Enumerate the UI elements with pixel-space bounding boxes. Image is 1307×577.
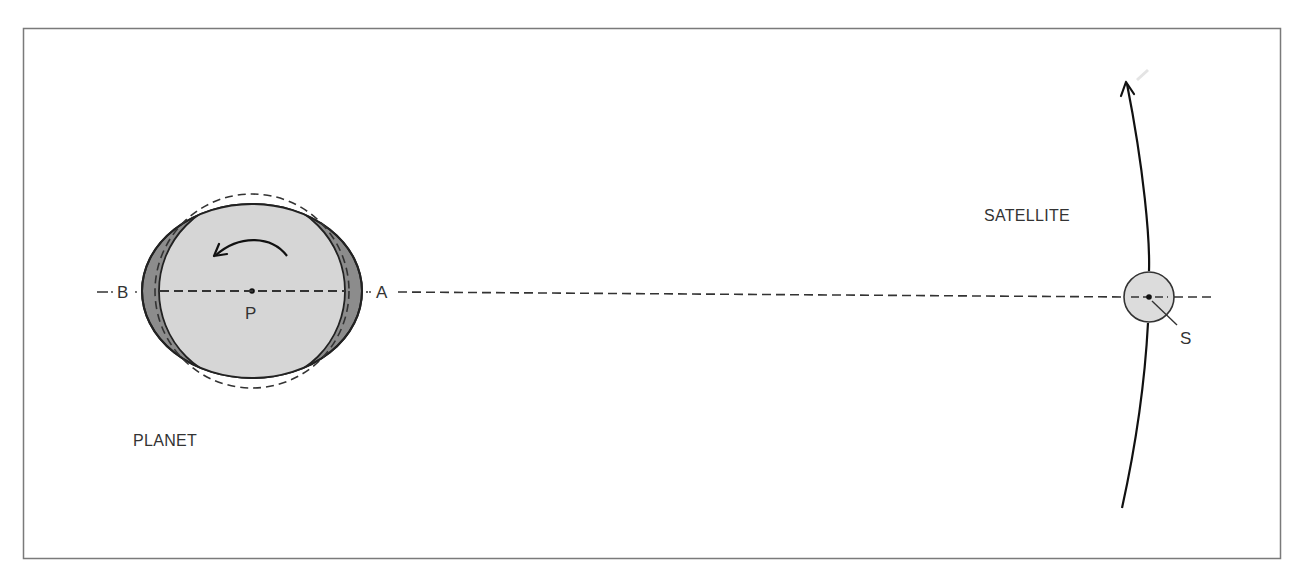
axis-dot — [135, 291, 137, 293]
label-b: B — [117, 283, 128, 302]
label-s: S — [1180, 329, 1191, 348]
axis-dot — [369, 291, 371, 293]
label-planet: PLANET — [133, 432, 197, 449]
tidal-diagram: B A P S PLANET SATELLITE — [0, 0, 1307, 577]
label-a: A — [376, 283, 388, 302]
axis-dot — [111, 291, 113, 293]
satellite-center-point — [1146, 294, 1152, 300]
label-p: P — [245, 304, 256, 323]
label-satellite: SATELLITE — [984, 207, 1070, 224]
